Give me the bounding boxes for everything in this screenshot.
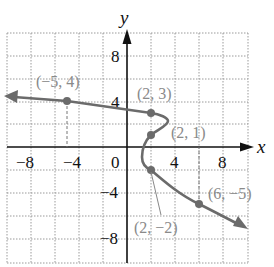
y-axis-label: y: [118, 7, 129, 28]
point-m5-4: [63, 97, 71, 105]
point-2-3: [147, 109, 155, 117]
x-tick--8: −8: [16, 153, 34, 172]
y-axis-arrow-icon: [123, 29, 132, 44]
x-tick-0: 0: [111, 153, 120, 172]
graph: x y −8 −4 0 4 8 8 4 −4 −8 (−5, 4) (2, 3)…: [0, 0, 274, 267]
x-tick-4: 4: [170, 153, 179, 172]
label-6-m5: (6, −5): [208, 185, 252, 203]
y-tick--8: −8: [100, 229, 118, 248]
right-arrow-icon: [233, 216, 248, 229]
points: [63, 97, 203, 208]
x-axis-arrow-icon: [240, 143, 254, 152]
label-m5-4: (−5, 4): [36, 73, 80, 91]
x-tick-8: 8: [218, 153, 227, 172]
y-tick-8: 8: [111, 47, 120, 66]
left-arrow-icon: [4, 90, 18, 103]
label-2-3: (2, 3): [137, 85, 172, 103]
x-tick--4: −4: [63, 153, 82, 172]
label-2-1: (2, 1): [171, 124, 206, 142]
point-6-m5: [195, 200, 203, 208]
label-2-m2: (2, −2): [134, 219, 178, 237]
point-2-1: [147, 131, 155, 139]
y-tick--4: −4: [100, 183, 119, 202]
x-axis-label: x: [256, 136, 266, 157]
